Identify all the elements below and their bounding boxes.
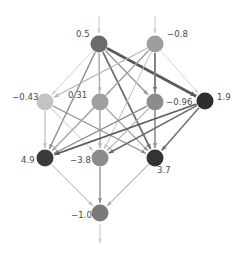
nodes-layer [37, 36, 214, 222]
graph-node-n4[interactable] [92, 94, 109, 111]
graph-edge-n1-n7 [49, 52, 95, 149]
edges-layer [43, 48, 199, 206]
node-value-label-n1: 0.5 [76, 30, 90, 39]
external-arrow-in1 [97, 16, 101, 33]
graph-node-n7[interactable] [37, 150, 54, 167]
graph-node-n6[interactable] [197, 93, 214, 110]
graph-node-n5[interactable] [147, 94, 164, 111]
graph-edge-n6-n7 [54, 104, 196, 155]
node-value-label-n3: −0.43 [12, 93, 39, 102]
node-value-label-n5: −0.96 [166, 98, 193, 107]
external-arrow-in2 [153, 16, 157, 33]
node-value-label-n6: 1.9 [217, 93, 231, 102]
graph-edge-n3-n7 [43, 111, 47, 148]
node-value-label-n7: 4.9 [21, 156, 35, 165]
node-value-label-n4: 0.31 [68, 91, 87, 100]
node-value-label-n9: 3.7 [157, 166, 171, 175]
graph-node-n9[interactable] [147, 150, 164, 167]
graph-node-n3[interactable] [37, 94, 54, 111]
graph-edge-n7-n10 [51, 164, 93, 206]
diagram-canvas: 0.5−0.8−0.430.31−0.961.94.9−3.83.7−1.0 [0, 0, 246, 259]
graph-node-n10[interactable] [92, 205, 109, 222]
graph-node-n2[interactable] [147, 36, 164, 53]
graph-svg [0, 0, 246, 259]
node-value-label-n10: −1.0 [71, 211, 92, 220]
external-arrow-out1 [98, 224, 102, 243]
node-value-label-n2: −0.8 [167, 30, 188, 39]
graph-edge-n8-n10 [98, 167, 102, 203]
graph-node-n8[interactable] [92, 150, 109, 167]
graph-node-n1[interactable] [91, 36, 108, 53]
graph-edge-n9-n10 [107, 164, 149, 206]
node-value-label-n8: −3.8 [70, 156, 91, 165]
